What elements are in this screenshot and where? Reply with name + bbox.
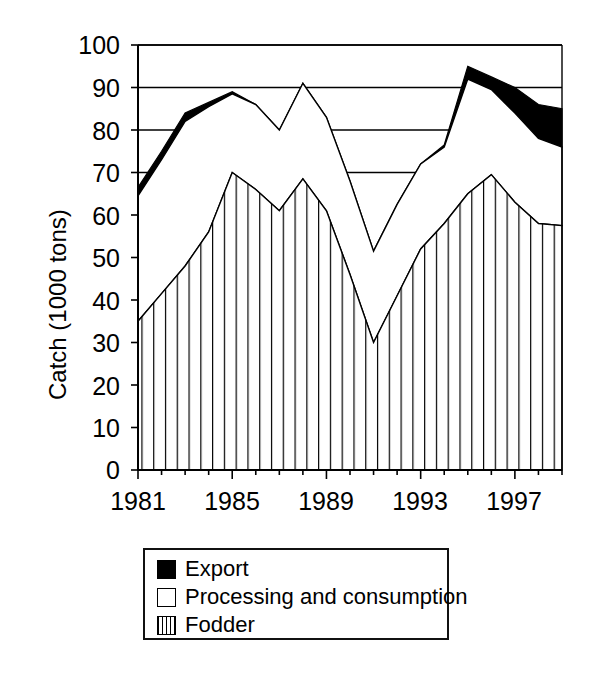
legend-item-processing: Processing and consumption [157, 583, 447, 611]
legend-label-fodder: Fodder [185, 614, 255, 636]
legend-label-processing: Processing and consumption [185, 586, 468, 608]
series-layer [138, 66, 562, 470]
legend-item-export: Export [157, 555, 447, 583]
white-square-icon [157, 588, 176, 607]
legend-label-export: Export [185, 558, 249, 580]
legend-item-fodder: Fodder [157, 611, 447, 639]
hatched-square-icon [157, 616, 176, 635]
black-square-icon [157, 560, 176, 579]
chart-figure: Catch (1000 tons) 100 90 80 70 60 50 40 … [0, 0, 601, 678]
legend: Export Processing and consumption Fodder [143, 548, 449, 640]
